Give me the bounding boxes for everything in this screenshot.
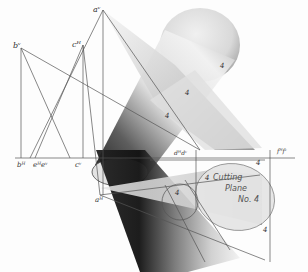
cutting-plane-line2: Plane bbox=[225, 184, 247, 193]
label-4-low-2: 4 bbox=[174, 189, 179, 197]
label-c-h-top: cᴴ bbox=[72, 40, 81, 49]
label-4-top-2: 4 bbox=[184, 89, 189, 97]
drawing-canvas: aᵛ bᵛ cᴴ bᴴ eᴴeᵛ cᵛ aᴴ dᴴdᵛ fᴴfᵛ 4 4 4 4… bbox=[0, 0, 308, 272]
label-c-v: cᵛ bbox=[75, 161, 82, 169]
cutting-plane-line1: Cutting bbox=[213, 173, 242, 182]
label-4-top-1: 4 bbox=[219, 62, 224, 70]
label-4-bottom: 4 bbox=[262, 226, 267, 234]
label-4-ground: 4 bbox=[255, 159, 260, 167]
label-4-top-3: 4 bbox=[164, 112, 169, 120]
label-e-h-e-v: eᴴeᵛ bbox=[33, 161, 48, 169]
label-4-low-1: 4 bbox=[204, 174, 209, 182]
label-a-h: aᴴ bbox=[95, 196, 103, 204]
label-a-v: aᵛ bbox=[93, 5, 101, 14]
cutting-plane-line3: No. 4 bbox=[238, 195, 259, 204]
label-b-h: bᴴ bbox=[17, 161, 25, 169]
label-f-h-f-v: fᴴfᵛ bbox=[276, 147, 287, 155]
label-b-v: bᵛ bbox=[13, 41, 21, 50]
label-d-h-d-v: dᴴdᵛ bbox=[174, 149, 187, 156]
technical-drawing: aᵛ bᵛ cᴴ bᴴ eᴴeᵛ cᵛ aᴴ dᴴdᵛ fᴴfᵛ 4 4 4 4… bbox=[0, 0, 308, 272]
